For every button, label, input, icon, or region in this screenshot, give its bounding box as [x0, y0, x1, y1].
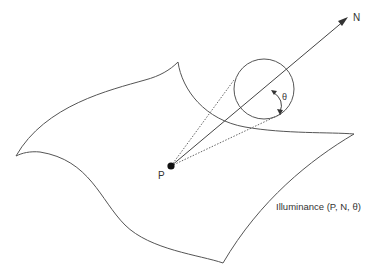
angle-label: θ [282, 92, 287, 102]
angle-arc [273, 92, 281, 112]
angle-arrow-bottom-icon [277, 109, 283, 115]
normal-label: N [353, 12, 360, 23]
cone-circle [234, 59, 294, 119]
normal-vector [171, 20, 345, 166]
caption-label: Illuminance (P, N, θ) [276, 201, 361, 212]
illuminance-diagram: P N θ Illuminance (P, N, θ) [0, 0, 387, 279]
surface-patch [16, 62, 354, 263]
point-label: P [158, 170, 165, 181]
cone-edge-upper [171, 80, 234, 166]
point-p-dot [167, 162, 174, 169]
